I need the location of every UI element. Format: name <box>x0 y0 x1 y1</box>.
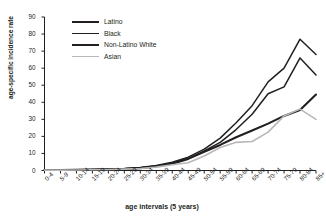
legend-label-non-latino-white: Non-Latino White <box>104 41 157 48</box>
y-axis-tick-label: 80 <box>20 30 36 37</box>
y-axis-tick-label: 90 <box>20 13 36 20</box>
legend-swatch-black <box>72 33 99 35</box>
legend-label-black: Black <box>104 30 121 37</box>
y-axis-tick-label: 20 <box>20 132 36 139</box>
legend-label-latino: Latino <box>104 18 123 25</box>
y-axis-tick-label: 0 <box>20 167 36 174</box>
axes <box>45 17 317 171</box>
series-line-non-latino-white <box>45 95 317 170</box>
y-axis-tick-label: 70 <box>20 47 36 54</box>
y-axis-tick-label: 50 <box>20 81 36 88</box>
data-series-group <box>45 39 317 170</box>
x-axis-title: age intervals (5 years) <box>0 203 324 210</box>
legend-swatch-non-latino-white <box>72 44 99 46</box>
y-axis-tick-label: 60 <box>20 64 36 71</box>
y-axis-tick-label: 10 <box>20 149 36 156</box>
series-line-black <box>45 39 317 170</box>
legend-swatch-latino <box>72 21 99 23</box>
legend-label-asian: Asian <box>104 53 121 60</box>
y-axis-tick-label: 30 <box>20 115 36 122</box>
y-axis-tick-label: 40 <box>20 98 36 105</box>
legend-swatch-asian <box>72 56 99 58</box>
